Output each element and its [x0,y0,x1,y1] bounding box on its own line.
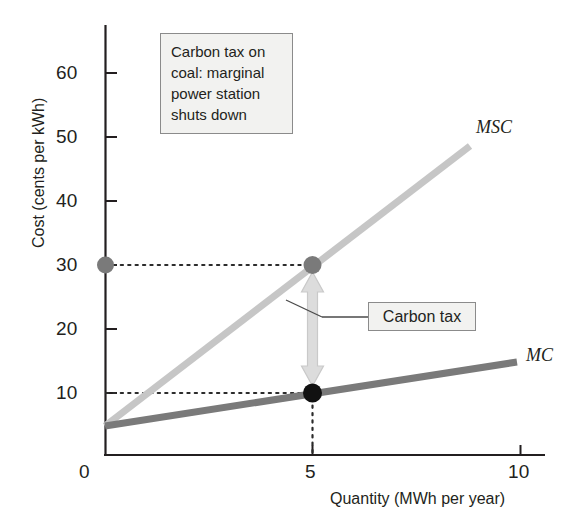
mc-curve-label: MC [526,345,553,366]
tax-box-leader-line [286,300,368,317]
y-tick-label-30: 30 [56,254,78,276]
chart-figure: 60 50 40 30 20 10 0 5 10 Cost (cents per… [0,0,572,527]
note-line-3: power station [171,83,283,104]
note-line-4: shuts down [171,104,283,125]
carbon-tax-label-box: Carbon tax [368,302,476,331]
msc-curve [105,146,470,426]
carbon-tax-note-box: Carbon tax on coal: marginal power stati… [160,33,293,134]
y-tick-label-20: 20 [56,318,78,340]
markers-group [97,256,322,403]
note-line-2: coal: marginal [171,62,283,83]
y-axis-title: Cost (cents per kWh) [30,98,48,248]
note-line-1: Carbon tax on [171,41,283,62]
x-tick-label-5: 5 [305,461,316,483]
x-axis-title: Quantity (MWh per year) [330,490,505,508]
y-tick-label-10: 10 [56,382,78,404]
mc-equilibrium-marker [303,384,322,403]
msc-y-intercept-marker [97,257,114,274]
y-tick-label-60: 60 [56,62,78,84]
x-tick-label-10: 10 [508,461,530,483]
msc-equilibrium-marker [304,256,322,274]
msc-curve-label: MSC [476,117,512,138]
carbon-tax-arrow [302,272,324,386]
y-tick-label-40: 40 [56,190,78,212]
y-tick-label-50: 50 [56,126,78,148]
x-tick-label-0: 0 [79,461,90,483]
